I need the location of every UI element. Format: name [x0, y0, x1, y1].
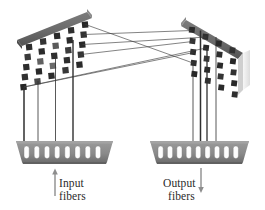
input-fiber-block	[16, 141, 113, 164]
input-fibers-label: Input fibers	[59, 177, 86, 202]
output-fiber-block	[150, 141, 249, 164]
output-fibers-label-line1: Output	[163, 177, 196, 189]
input-fiber-lines	[24, 40, 73, 141]
beam-path	[24, 53, 194, 88]
beam-path	[86, 25, 194, 64]
output-down-arrow	[198, 168, 204, 193]
input-fibers-label-line2: fibers	[59, 190, 86, 203]
figure-canvas	[0, 0, 265, 210]
beam-path	[84, 31, 192, 35]
output-fibers-label-line2: fibers	[163, 190, 196, 203]
mems-optical-crossconnect-figure: Input fibers Output fibers	[0, 0, 265, 210]
output-fibers-label: Output fibers	[163, 177, 196, 202]
input-fibers-label-line1: Input	[59, 177, 84, 189]
input-up-arrow	[52, 169, 58, 197]
output-mirror-array	[181, 17, 250, 98]
beam-path	[83, 37, 207, 45]
input-mirror-array	[17, 9, 92, 90]
fiber-slots	[158, 146, 238, 159]
